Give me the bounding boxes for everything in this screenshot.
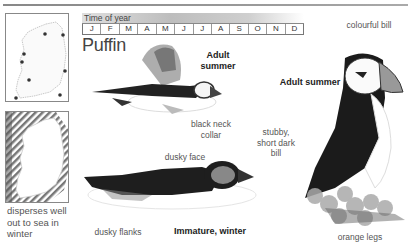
top-rule	[3, 4, 408, 6]
collar-label-line2: collar	[201, 130, 221, 140]
month-feb: F	[100, 24, 118, 34]
month-oct: O	[248, 24, 266, 34]
time-of-year-title: Time of year	[82, 13, 304, 24]
orange-legs-label: orange legs	[333, 232, 387, 243]
flying-title-line1: Adult	[207, 50, 230, 60]
month-apr: A	[137, 24, 155, 34]
month-jan: J	[83, 24, 100, 34]
short-bill-line3: bill	[271, 148, 281, 158]
winter-distribution-map	[5, 111, 69, 203]
swimming-puffin-illustration	[82, 155, 262, 220]
breeding-distribution-map	[5, 13, 69, 102]
month-dec: D	[285, 24, 303, 34]
month-may: M	[156, 24, 174, 34]
flying-title: Adult summer	[198, 50, 238, 71]
short-bill-line2: short dark	[257, 138, 295, 148]
month-strip: J F M A M J J A S O N D	[82, 24, 304, 35]
month-jul: J	[193, 24, 211, 34]
month-sep: S	[229, 24, 247, 34]
standing-puffin-illustration	[295, 48, 411, 230]
swimming-title: Immature, winter	[170, 226, 250, 237]
standing-title: Adult summer	[276, 77, 344, 88]
bill-label: colourful bill	[334, 20, 404, 31]
ireland-map-icon	[6, 14, 69, 102]
dusky-flanks-label: dusky flanks	[88, 227, 148, 238]
winter-map-caption: disperses well out to sea in winter	[7, 205, 79, 240]
month-jun: J	[174, 24, 192, 34]
short-bill-line1: stubby,	[263, 127, 290, 137]
time-of-year-bar: Time of year J F M A M J J A S O N D	[82, 13, 304, 35]
short-bill-label: stubby, short dark bill	[252, 127, 300, 159]
ireland-winter-map-icon	[6, 112, 69, 203]
month-nov: N	[266, 24, 284, 34]
month-aug: A	[211, 24, 229, 34]
flying-title-line2: summer	[200, 61, 235, 71]
collar-label: black neck collar	[186, 119, 236, 140]
month-mar: M	[119, 24, 137, 34]
collar-label-line1: black neck	[191, 119, 231, 129]
dusky-face-label: dusky face	[160, 152, 210, 163]
